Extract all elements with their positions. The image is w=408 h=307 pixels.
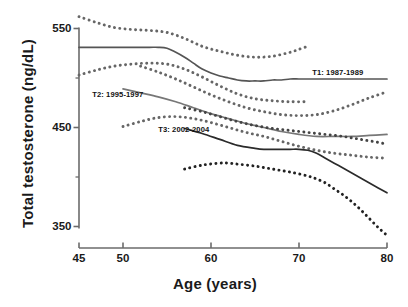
- series-line-9: [185, 163, 387, 235]
- x-axis-title: Age (years): [100, 275, 330, 292]
- axis-spines: [79, 28, 387, 249]
- series-line-6: [123, 117, 387, 159]
- x-tick-label-60: 60: [196, 252, 226, 264]
- x-tick-label-80: 80: [372, 252, 402, 264]
- y-tick-label-450: 450: [38, 121, 72, 133]
- x-tick-label-50: 50: [108, 252, 138, 264]
- series-annotation-3: T3: 2002-2004: [158, 125, 209, 134]
- x-tick-label-45: 45: [64, 252, 94, 264]
- x-tick-label-70: 70: [284, 252, 314, 264]
- axis-ticks: [74, 29, 388, 249]
- series-line-8: [185, 108, 387, 145]
- series-annotation-1: T1: 1987-1989: [312, 68, 363, 77]
- data-series-group: [79, 17, 387, 236]
- chart-figure: Total testosterone (ng/dL) Age (years) 3…: [0, 0, 408, 307]
- series-line-2: [79, 17, 308, 58]
- y-tick-label-350: 350: [38, 220, 72, 232]
- series-annotation-2: T2: 1995-1997: [92, 90, 143, 99]
- y-axis-title: Total testosterone (ng/dL): [19, 19, 36, 249]
- y-tick-label-550: 550: [38, 22, 72, 34]
